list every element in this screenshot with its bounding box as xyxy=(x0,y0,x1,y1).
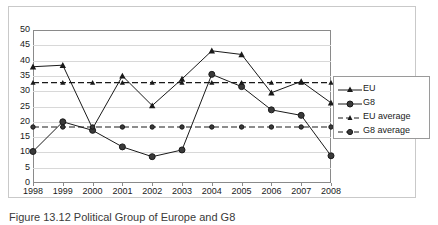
legend-item-eu-average[interactable]: EU average xyxy=(337,109,426,123)
data-point xyxy=(298,112,304,118)
legend-item-g8[interactable]: G8 xyxy=(337,95,426,109)
legend-key-eu-average xyxy=(337,110,363,122)
data-point xyxy=(90,125,94,129)
legend-item-g8-average[interactable]: G8 average xyxy=(337,123,426,137)
data-point xyxy=(119,144,125,150)
data-point xyxy=(210,125,214,129)
legend-item-eu[interactable]: EU xyxy=(337,81,426,95)
data-point xyxy=(31,125,35,129)
data-point xyxy=(269,125,273,129)
data-point xyxy=(180,125,184,129)
data-point xyxy=(179,147,185,153)
legend-label-g8-average: G8 average xyxy=(363,126,410,135)
data-point xyxy=(209,48,215,54)
data-point xyxy=(61,125,65,129)
data-point xyxy=(60,119,66,125)
series-eu-average xyxy=(30,80,333,85)
data-point xyxy=(239,125,243,129)
data-point xyxy=(120,125,124,129)
data-point xyxy=(299,125,303,129)
data-point xyxy=(30,148,36,154)
legend-label-eu: EU xyxy=(363,84,376,93)
figure-caption: Figure 13.12 Political Group of Europe a… xyxy=(9,210,429,225)
data-point xyxy=(149,154,155,160)
legend-key-g8 xyxy=(337,96,363,108)
legend-key-g8-average xyxy=(337,124,363,136)
legend-key-eu xyxy=(337,82,363,94)
chart-legend: EU G8 EU average xyxy=(333,76,430,139)
legend-label-g8: G8 xyxy=(363,98,375,107)
series-eu xyxy=(30,48,334,132)
data-point xyxy=(328,153,334,159)
series-line xyxy=(33,51,331,129)
data-point xyxy=(150,125,154,129)
data-point xyxy=(268,107,274,113)
data-point xyxy=(209,71,215,77)
line-chart: 05101520253035404550 1998199920002001200… xyxy=(0,0,438,200)
legend-label-eu-average: EU average xyxy=(363,112,411,121)
data-point xyxy=(119,73,125,79)
